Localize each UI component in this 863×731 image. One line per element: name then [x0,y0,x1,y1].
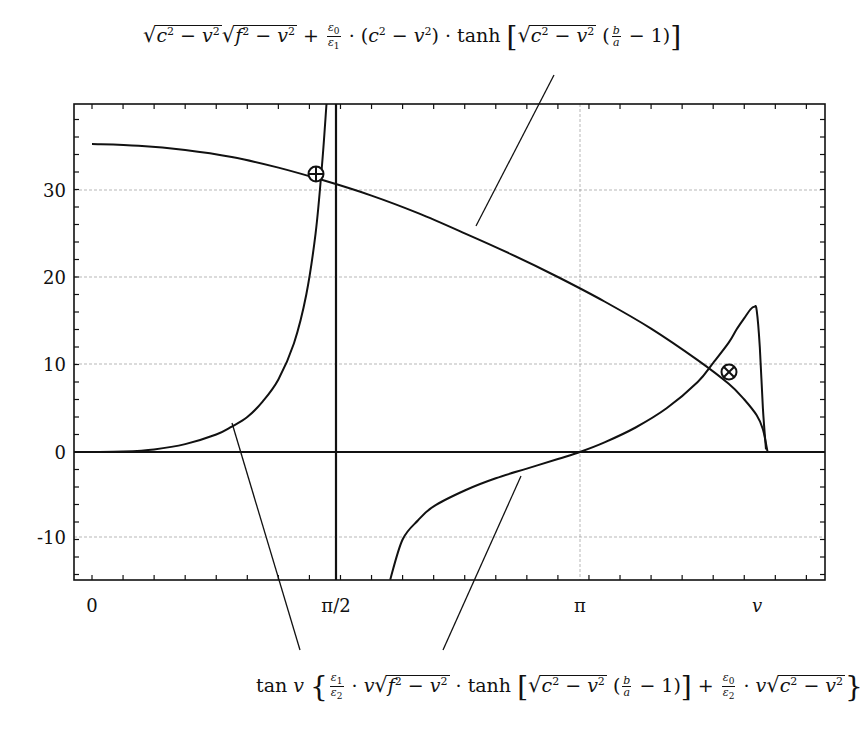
y-label-0: 0 [55,442,66,463]
x-tick-labels: 0 π/2 π v [86,595,762,616]
formula-bottom: tan v {ε1ε2 · v√f2 − v2 · tanh [√c2 − v2… [256,672,863,702]
leader-bottom-right [443,476,521,650]
leader-bottom-left [232,423,300,650]
x-label-pi: π [574,595,586,616]
leader-lines [232,75,554,650]
curve-tan-branch-2 [390,306,766,580]
intersection-marker-2 [722,365,737,380]
x-label-v: v [752,595,762,616]
gridlines [74,104,825,580]
y-label-m10: -10 [37,527,66,548]
y-label-10: 10 [43,354,66,375]
y-label-30: 30 [43,180,66,201]
plot-frame [74,104,825,580]
curves [92,104,768,580]
y-label-20: 20 [43,267,66,288]
x-label-0: 0 [86,595,97,616]
y-tick-labels: 30 20 10 0 -10 [37,180,66,548]
axis-ticks [74,104,825,580]
x-label-pi-half: π/2 [321,595,350,616]
intersection-marker-1 [309,167,324,182]
formula-top: √c2 − v2√f2 − v2 + ε0ε1 · (c2 − v2) · ta… [143,22,681,52]
curve-tan-branch-1 [92,104,327,452]
leader-top [476,75,554,226]
